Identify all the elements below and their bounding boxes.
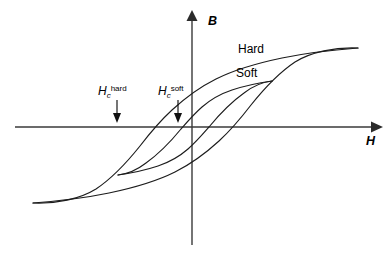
hysteresis-plot-canvas: Hard Soft Hchard Hcsoft B H [0, 0, 388, 253]
coercivity-hard-superscript: hard [111, 84, 127, 93]
soft-loop-upper-branch [118, 81, 272, 175]
coercivity-soft-label: Hcsoft [158, 84, 184, 100]
hard-loop-lower-branch [33, 48, 358, 203]
coercivity-soft-base: H [158, 84, 167, 98]
axes-group [15, 10, 383, 245]
coercivity-soft-annotation: Hcsoft [158, 84, 184, 123]
coercivity-hard-pointer-arrowhead [113, 113, 121, 123]
soft-curve-label: Soft [236, 66, 258, 80]
hard-curve-label: Hard [238, 42, 264, 56]
coercivity-soft-superscript: soft [171, 84, 185, 93]
coercivity-hard-base: H [98, 84, 107, 98]
y-axis-label: B [208, 14, 217, 28]
hard-loop-upper-branch [33, 48, 358, 203]
coercivity-hard-annotation: Hchard [98, 84, 127, 123]
x-axis-label: H [366, 134, 376, 148]
hysteresis-figure: Hard Soft Hchard Hcsoft B H [0, 0, 388, 253]
hard-hysteresis-loop [33, 48, 358, 203]
soft-loop-lower-branch [118, 81, 272, 175]
soft-hysteresis-loop [118, 81, 272, 175]
x-axis-arrowhead [371, 122, 383, 133]
coercivity-hard-label: Hchard [98, 84, 127, 100]
y-axis-arrowhead [187, 10, 198, 21]
coercivity-soft-pointer-arrowhead [174, 113, 182, 123]
